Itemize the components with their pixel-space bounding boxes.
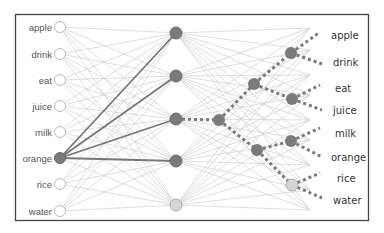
hidden-node [170, 199, 182, 211]
output-label: rice [337, 173, 356, 184]
branch-node [248, 78, 260, 90]
input-label: drink [31, 49, 52, 60]
output-label: juice [332, 105, 357, 116]
input-label: eat [39, 75, 53, 86]
network-diagram: appledrinkeatjuicemilkorangericewater ap… [0, 0, 384, 233]
input-node-milk [55, 127, 66, 138]
input-label: rice [37, 179, 52, 190]
output-label: orange [331, 152, 366, 163]
leaf-node [285, 135, 297, 147]
output-label: eat [335, 83, 351, 94]
input-node-drink [55, 49, 66, 60]
input-node-juice [55, 101, 66, 112]
hidden-node [170, 70, 182, 82]
input-node-apple [55, 22, 66, 33]
leaf-node [286, 93, 298, 105]
leaf-node [285, 47, 297, 59]
leaf-node [286, 179, 298, 191]
center-node [213, 114, 225, 126]
input-label: apple [29, 22, 52, 33]
input-node-orange [55, 153, 66, 164]
output-label: apple [331, 30, 359, 41]
input-label: water [28, 206, 52, 217]
input-node-water [55, 206, 66, 217]
hidden-node [170, 27, 182, 39]
input-node-rice [55, 179, 66, 190]
output-label: milk [335, 128, 356, 139]
output-label: water [333, 195, 362, 206]
hidden-node [170, 113, 182, 125]
input-label: juice [31, 101, 52, 112]
branch-node [251, 144, 263, 156]
hidden-node [170, 155, 182, 167]
input-label: milk [35, 127, 52, 138]
input-node-eat [55, 75, 66, 86]
input-label: orange [22, 153, 52, 164]
output-label: drink [333, 57, 359, 68]
